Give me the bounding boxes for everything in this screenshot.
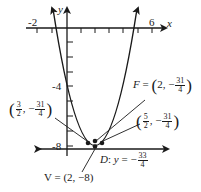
directrix-label: D: y = −334 bbox=[100, 152, 149, 169]
y-tick-label-neg4: -4 bbox=[52, 81, 61, 92]
vertex-point bbox=[93, 144, 98, 149]
vertex-label: V = (2, −8) bbox=[44, 172, 93, 183]
x-axis-label: x bbox=[167, 18, 172, 29]
x-tick-label-6: 6 bbox=[149, 17, 155, 28]
x-axis bbox=[26, 28, 166, 33]
left-latus-label: (32, −314) bbox=[9, 101, 52, 118]
focus-point bbox=[93, 139, 98, 144]
y-axis-label: y bbox=[58, 4, 63, 15]
left-latus-point bbox=[86, 141, 91, 146]
focus-label: F = (2, −314) bbox=[133, 77, 192, 94]
right-latus-point bbox=[100, 141, 105, 146]
y-tick-label-neg8: -8 bbox=[52, 141, 61, 152]
x-tick-label-neg2: -2 bbox=[28, 17, 37, 28]
y-axis bbox=[67, 8, 73, 156]
right-latus-label: (52, −314) bbox=[136, 113, 179, 130]
